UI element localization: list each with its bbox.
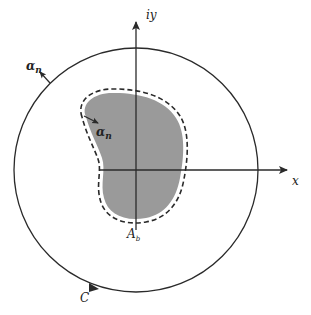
region-label: Ab: [126, 227, 141, 243]
real-axis-label: x: [292, 174, 299, 188]
contour-label: C: [80, 291, 89, 305]
contour-diagram: iy x αn αn Ab C: [0, 0, 311, 315]
imaginary-axis-label: iy: [146, 8, 157, 22]
outer-normal-label: αn: [26, 59, 42, 75]
